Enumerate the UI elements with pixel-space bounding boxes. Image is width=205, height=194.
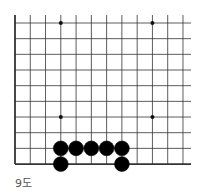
black-stone: [114, 141, 129, 156]
diagram-caption: 9도: [15, 174, 32, 190]
black-stone: [114, 157, 129, 172]
star-point: [59, 21, 63, 25]
black-stone: [84, 141, 99, 156]
star-point: [150, 115, 154, 119]
black-stone: [53, 157, 68, 172]
star-point: [59, 115, 63, 119]
black-stone: [69, 141, 84, 156]
black-stone: [53, 141, 68, 156]
go-board: [0, 0, 205, 194]
star-point: [150, 21, 154, 25]
black-stone: [99, 141, 114, 156]
